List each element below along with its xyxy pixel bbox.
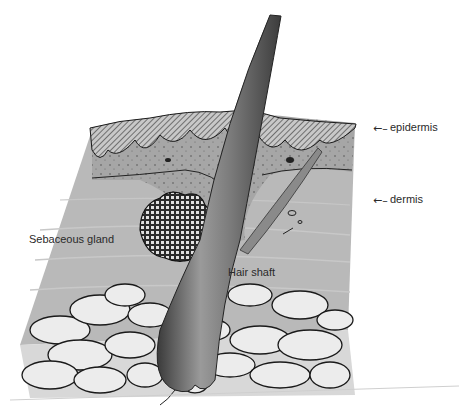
- skin-diagram: [0, 0, 459, 411]
- sebaceous-gland-label: Sebaceous gland: [29, 233, 114, 245]
- epidermis-arrow: ←–: [373, 122, 388, 135]
- hair-shaft-label: Hair shaft: [228, 266, 275, 278]
- dermis-label: dermis: [390, 193, 423, 205]
- epidermis-label: epidermis: [390, 121, 438, 133]
- dermis-arrow: ←–: [373, 194, 388, 207]
